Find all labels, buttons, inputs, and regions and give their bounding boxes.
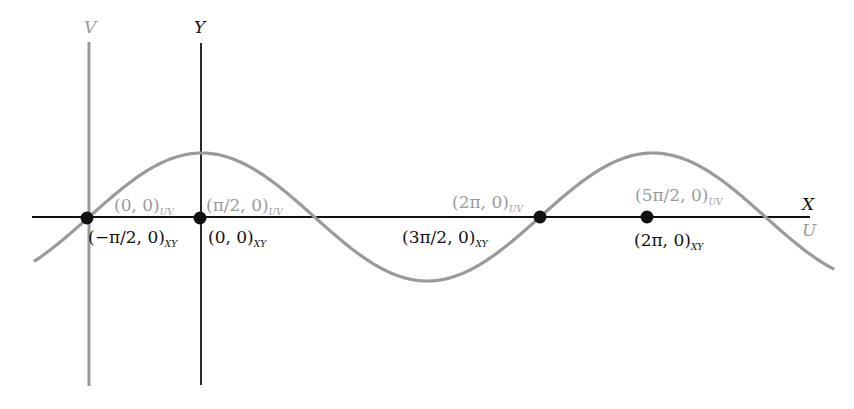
point-0 [81, 212, 94, 225]
y-axis-label: Y [194, 17, 207, 37]
coordinate-diagram: V Y X U (0, 0)UV (π/2, 0)UV (2π, 0)UV (5… [0, 0, 854, 409]
u-axis-label: U [802, 220, 817, 240]
point-3-uv-label: (5π/2, 0)UV [635, 185, 724, 207]
point-2-xy-label: (3π/2, 0)XY [402, 227, 489, 249]
point-1 [194, 212, 207, 225]
point-1-uv-label: (π/2, 0)UV [206, 195, 284, 217]
x-axis-label: X [800, 194, 815, 214]
v-axis-label: V [84, 17, 98, 37]
point-1-xy-label: (0, 0)XY [208, 227, 267, 249]
point-3 [641, 211, 654, 224]
point-0-uv-label: (0, 0)UV [114, 195, 175, 217]
point-2 [534, 211, 547, 224]
point-3-xy-label: (2π, 0)XY [634, 230, 704, 252]
point-2-uv-label: (2π, 0)UV [452, 192, 524, 214]
point-0-xy-label: (−π/2, 0)XY [88, 227, 178, 249]
